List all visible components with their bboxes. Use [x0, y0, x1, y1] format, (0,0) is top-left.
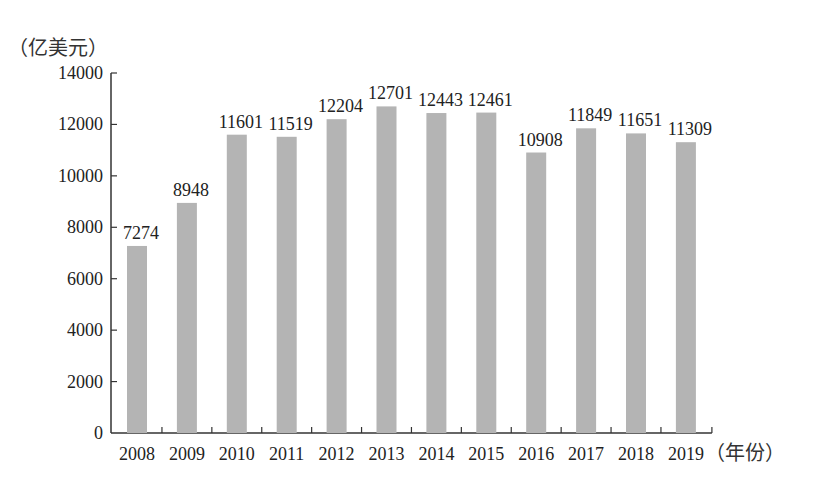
data-label: 8948	[173, 180, 209, 200]
y-axis-label: （亿美元）	[8, 36, 108, 60]
bar	[476, 113, 496, 433]
y-tick-label: 14000	[58, 63, 103, 83]
data-label: 12461	[468, 90, 513, 110]
bar	[526, 153, 546, 433]
data-label: 11519	[269, 114, 313, 134]
data-label: 7274	[123, 223, 159, 243]
x-tick-label: 2018	[618, 444, 654, 464]
bar	[576, 128, 596, 433]
x-axis-label: （年份）	[705, 441, 785, 465]
bar	[377, 106, 397, 433]
x-tick-label: 2015	[468, 444, 504, 464]
data-label: 11601	[219, 112, 263, 132]
bar	[676, 142, 696, 433]
bar	[426, 113, 446, 433]
bar	[227, 135, 247, 433]
x-tick-label: 2013	[369, 444, 405, 464]
data-label: 11309	[668, 119, 712, 139]
data-labels: 7274894811601115191220412701124431246110…	[123, 83, 712, 243]
y-tick-label: 10000	[58, 166, 103, 186]
y-tick-label: 2000	[67, 372, 103, 392]
bar-chart: （亿美元） （年份） 72748948116011151912204127011…	[0, 0, 825, 494]
bars	[127, 106, 696, 433]
bar	[277, 137, 297, 433]
data-label: 12204	[318, 96, 363, 116]
x-tick-label: 2012	[319, 444, 355, 464]
data-label: 10908	[518, 130, 563, 150]
x-tick-label: 2019	[668, 444, 704, 464]
bar	[177, 203, 197, 433]
y-tick-label: 8000	[67, 217, 103, 237]
data-label: 11651	[618, 110, 662, 130]
x-tick-label: 2017	[568, 444, 604, 464]
x-tick-label: 2010	[219, 444, 255, 464]
bar	[327, 119, 347, 433]
y-tick-label: 6000	[67, 269, 103, 289]
x-tick-label: 2011	[269, 444, 304, 464]
x-tick-label: 2008	[119, 444, 155, 464]
y-tick-label: 4000	[67, 320, 103, 340]
data-label: 12701	[368, 83, 413, 103]
bar	[626, 133, 646, 433]
y-tick-label: 12000	[58, 114, 103, 134]
data-label: 12443	[418, 90, 463, 110]
data-label: 11849	[568, 105, 612, 125]
bar	[127, 246, 147, 433]
x-tick-label: 2016	[518, 444, 554, 464]
y-tick-label: 0	[94, 423, 103, 443]
x-tick-label: 2014	[418, 444, 454, 464]
x-tick-label: 2009	[169, 444, 205, 464]
